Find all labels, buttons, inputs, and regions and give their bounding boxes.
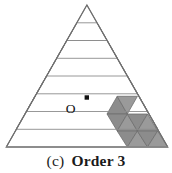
origin-point-dot: [85, 95, 89, 99]
figure-container: O (c) Order 3: [0, 0, 172, 173]
caption-label: Order 3: [71, 152, 125, 169]
caption-index: (c): [47, 152, 65, 169]
origin-label: O: [66, 101, 76, 116]
grid-horizontal-lines: [16, 23, 158, 130]
figure-caption: (c) Order 3: [0, 151, 172, 170]
shaded-region: [107, 96, 168, 147]
order-3-triangle-diagram: O: [0, 0, 172, 173]
